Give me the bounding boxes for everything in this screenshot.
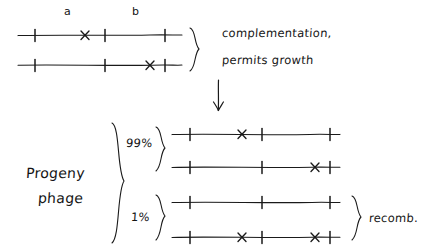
percent-99-brace [156, 127, 165, 171]
parental-brace [190, 28, 199, 71]
gene-label-a: a [64, 5, 71, 18]
complementation-caption-line1: complementation, [222, 26, 333, 40]
parent-b-mutant-line [18, 60, 182, 72]
percent-label-99: 99% [126, 136, 153, 150]
progeny-label-line1: Progeny [25, 165, 85, 181]
recombinant-progeny [156, 195, 361, 244]
progeny-a-mutant-line [172, 129, 340, 141]
percent-1-brace [156, 195, 165, 240]
progeny-label-line2: phage [37, 190, 83, 206]
progeny-b-mutant-line [172, 162, 340, 174]
complementation-caption-line2: permits growth [222, 53, 315, 67]
recomb-label: recomb. [369, 211, 419, 225]
parent-a-mutant-line [18, 30, 182, 42]
transition-arrow [214, 80, 224, 111]
parental-type-progeny [156, 127, 340, 174]
parental-chromosomes [18, 28, 199, 72]
progeny-outer-brace [112, 123, 124, 243]
recomb-brace [352, 196, 361, 240]
gene-label-b: b [132, 5, 139, 18]
percent-label-1: 1% [131, 210, 151, 224]
progeny-double-mutant-line [172, 232, 340, 244]
diagram-canvas: a b complementation, permits growth Prog… [0, 0, 439, 248]
progeny-wild-type-line [172, 197, 340, 209]
